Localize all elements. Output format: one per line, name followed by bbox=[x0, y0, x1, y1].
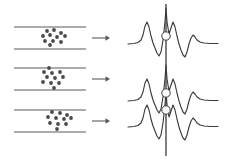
particle-dot bbox=[42, 70, 46, 74]
particle-dot bbox=[62, 117, 66, 121]
particle-dot bbox=[63, 34, 67, 38]
particle-dot bbox=[48, 43, 52, 47]
particle-dot bbox=[48, 33, 52, 37]
marker-node-1 bbox=[162, 32, 170, 40]
particle-dot bbox=[53, 76, 57, 80]
particle-dot bbox=[65, 113, 69, 117]
particle-dot bbox=[46, 115, 50, 119]
particle-dot bbox=[41, 34, 45, 38]
particle-dot bbox=[59, 40, 63, 44]
particle-dot bbox=[43, 39, 47, 43]
particle-dot bbox=[58, 111, 62, 115]
particle-dot bbox=[69, 116, 73, 120]
particle-dot bbox=[51, 39, 55, 43]
particle-dot bbox=[55, 35, 59, 39]
particle-dot bbox=[50, 71, 54, 75]
particle-dot bbox=[52, 86, 56, 90]
particle-dot bbox=[56, 122, 60, 126]
particle-dot bbox=[52, 28, 56, 32]
particle-dot bbox=[45, 29, 49, 33]
particle-dot bbox=[41, 80, 45, 84]
particle-dot bbox=[57, 81, 61, 85]
particle-dot bbox=[58, 70, 62, 74]
particle-dot bbox=[61, 75, 65, 79]
particle-dot bbox=[49, 81, 53, 85]
marker-node-3 bbox=[162, 106, 170, 114]
particle-dot bbox=[64, 122, 68, 126]
particle-dot bbox=[47, 66, 51, 70]
figure-container bbox=[0, 0, 230, 159]
particle-dot bbox=[50, 110, 54, 114]
particle-dot bbox=[45, 75, 49, 79]
particle-dot bbox=[59, 31, 63, 35]
particle-dot bbox=[55, 127, 59, 131]
particle-dot bbox=[54, 116, 58, 120]
particle-dot bbox=[48, 121, 52, 125]
scientific-figure bbox=[0, 0, 230, 159]
marker-node-2 bbox=[162, 89, 170, 97]
figure-background bbox=[0, 0, 230, 159]
